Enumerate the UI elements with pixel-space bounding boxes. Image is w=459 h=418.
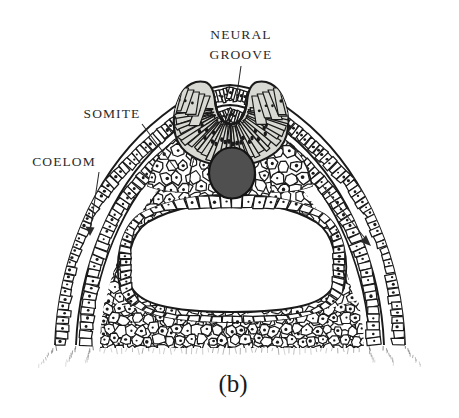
somite-label-text: SOMITE [84,106,141,121]
embryo-diagram-svg: NEURAL GROOVE SOMITE COELOM (b) [0,0,459,418]
archenteron-cavity [128,203,336,312]
neural-groove-label-line2: GROOVE [210,47,273,62]
neural-groove-label-line1: NEURAL [210,27,271,42]
figure-caption: (b) [218,370,247,398]
coelom-label-text: COELOM [32,154,96,169]
notochord [209,148,255,199]
embryo-cross-section-figure: NEURAL GROOVE SOMITE COELOM (b) [0,0,459,418]
